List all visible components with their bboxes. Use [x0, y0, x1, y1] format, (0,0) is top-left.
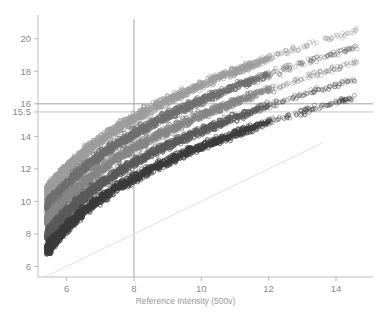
data-point [293, 65, 297, 69]
y-axis-ticks: 6810121415.5161820 [13, 33, 39, 272]
data-point [274, 66, 278, 70]
y-tick-label: 14 [20, 131, 31, 142]
y-tick-label: 10 [20, 196, 31, 207]
data-point-clouds [44, 26, 359, 256]
x-tick-label: 12 [263, 283, 274, 294]
x-tick-label: 14 [331, 283, 342, 294]
y-tick-label: 18 [20, 66, 31, 77]
x-tick-label: 10 [196, 283, 207, 294]
y-tick-label: 8 [26, 228, 31, 239]
y-tick-label: 12 [20, 163, 31, 174]
x-tick-label: 6 [64, 283, 69, 294]
plot-canvas: 6810121415.5161820 68101214 Reference In… [0, 0, 377, 322]
y-tick-label: 16 [20, 98, 31, 109]
scatter-plot-figure: 6810121415.5161820 68101214 Reference In… [0, 0, 377, 322]
x-axis-ticks: 68101214 [64, 277, 341, 294]
x-axis-title: Reference Intensity (500v) [136, 296, 236, 306]
x-tick-label: 8 [131, 283, 136, 294]
data-point [352, 93, 356, 97]
y-tick-label: 6 [26, 261, 31, 272]
y-tick-label: 20 [20, 33, 31, 44]
